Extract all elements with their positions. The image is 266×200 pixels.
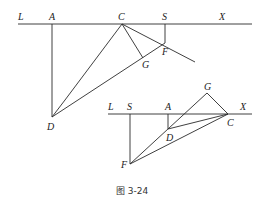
- figure-caption: 图 3-24: [116, 186, 149, 196]
- figure-bottom: L S A G X D C F: [107, 81, 252, 170]
- label-X: X: [239, 101, 247, 112]
- label-F: F: [120, 159, 128, 170]
- label-L: L: [107, 101, 114, 112]
- label-F: F: [161, 46, 169, 57]
- label-S: S: [162, 11, 167, 22]
- label-G: G: [204, 81, 211, 92]
- segment-DC: [168, 114, 228, 129]
- segment-CD-end: [52, 100, 65, 117]
- geometry-diagram: L A C S X F G D L S A G X D C F 图 3-24: [0, 0, 266, 200]
- segment-GC: [207, 93, 228, 114]
- label-C: C: [227, 117, 234, 128]
- segment-CD: [65, 24, 122, 100]
- ray-CF: [122, 24, 195, 62]
- label-D: D: [46, 121, 55, 132]
- label-C: C: [118, 11, 125, 22]
- label-L: L: [17, 11, 24, 22]
- label-S: S: [127, 101, 132, 112]
- label-A: A: [164, 101, 172, 112]
- label-G: G: [142, 59, 149, 70]
- segment-FC: [130, 114, 228, 164]
- label-D: D: [165, 132, 174, 143]
- label-A: A: [48, 11, 56, 22]
- label-X: X: [218, 11, 226, 22]
